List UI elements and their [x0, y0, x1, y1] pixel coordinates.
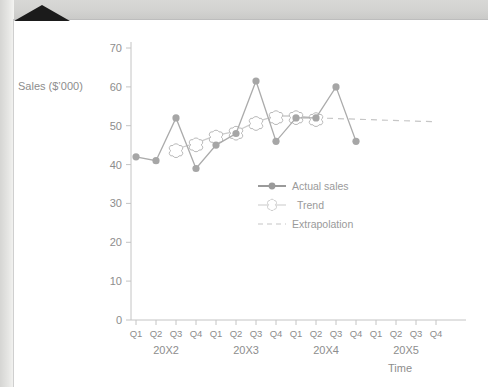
data-point-actual [212, 142, 219, 149]
x-tick-label: Q1 [290, 328, 303, 339]
y-tick-30: 30 [110, 197, 131, 209]
y-tick-label: 40 [110, 159, 122, 171]
y-tick-20: 20 [110, 236, 131, 248]
legend-label: Extrapolation [292, 218, 353, 230]
data-point-trend [249, 117, 263, 131]
legend-item-trend[interactable]: Trend [258, 199, 324, 211]
x-axis: Q1 Q2 Q3 Q4 Q1 Q2 Q3 Q4 Q1 Q2 Q3 Q4 Q1 Q… [130, 320, 466, 374]
y-tick-label: 20 [110, 236, 122, 248]
legend-item-actual-sales[interactable]: Actual sales [258, 180, 349, 192]
series-extrapolation [316, 118, 436, 122]
x-axis-title: Time [388, 362, 412, 374]
data-point-actual [352, 138, 359, 145]
y-tick-10: 10 [110, 275, 131, 287]
sales-trend-chart: 70 60 50 40 30 [0, 0, 488, 387]
y-tick-label: 0 [116, 314, 122, 326]
x-tick-label: Q4 [350, 328, 363, 339]
x-tick-label: Q2 [390, 328, 403, 339]
data-point-actual [132, 153, 139, 160]
x-tick-label: Q2 [150, 328, 163, 339]
data-point-actual [312, 114, 319, 121]
data-point-actual [192, 165, 199, 172]
x-tick-label: Q1 [370, 328, 383, 339]
y-axis-title: Sales ($’000) [18, 80, 83, 92]
x-tick-label: Q3 [250, 328, 263, 339]
x-tick-label: Q4 [430, 328, 443, 339]
x-year-label: 20X2 [153, 344, 179, 356]
data-point-actual [232, 130, 239, 137]
data-point-actual [272, 138, 279, 145]
data-point-actual [252, 77, 259, 84]
y-tick-60: 60 [110, 81, 131, 93]
x-tick-label: Q3 [170, 328, 183, 339]
x-year-label: 20X4 [313, 344, 339, 356]
y-tick-label: 60 [110, 81, 122, 93]
x-tick-label: Q3 [410, 328, 423, 339]
data-point-actual [332, 83, 339, 90]
y-tick-40: 40 [110, 159, 131, 171]
series-actual-sales [132, 77, 359, 172]
x-tick-label: Q3 [330, 328, 343, 339]
y-tick-0: 0 [116, 314, 131, 326]
data-point-trend [189, 138, 203, 152]
x-tick-label: Q2 [310, 328, 323, 339]
scanned-page: 70 60 50 40 30 [0, 0, 488, 387]
data-point-actual [292, 114, 299, 121]
data-point-actual [172, 114, 179, 121]
x-tick-label: Q2 [230, 328, 243, 339]
legend-label: Actual sales [292, 180, 349, 192]
y-tick-label: 50 [110, 120, 122, 132]
y-tick-70: 70 [110, 42, 131, 54]
legend-label: Trend [297, 199, 324, 211]
y-tick-label: 10 [110, 275, 122, 287]
y-tick-label: 30 [110, 197, 122, 209]
data-point-trend [169, 144, 183, 158]
y-axis: 70 60 50 40 30 [110, 42, 131, 326]
x-year-labels: 20X2 20X3 20X4 20X5 [153, 344, 419, 356]
y-tick-50: 50 [110, 120, 131, 132]
x-ticks [136, 320, 436, 325]
chart-legend: Actual sales Trend Extrapolation [258, 180, 353, 230]
x-tick-label: Q4 [270, 328, 283, 339]
legend-item-extrapolation[interactable]: Extrapolation [258, 218, 353, 230]
y-tick-label: 70 [110, 42, 122, 54]
x-year-label: 20X3 [233, 344, 259, 356]
x-tick-label: Q1 [210, 328, 223, 339]
data-point-trend [269, 111, 283, 125]
x-quarter-labels: Q1 Q2 Q3 Q4 Q1 Q2 Q3 Q4 Q1 Q2 Q3 Q4 Q1 Q… [130, 328, 443, 339]
x-year-label: 20X5 [393, 344, 419, 356]
x-tick-label: Q1 [130, 328, 143, 339]
data-point-actual [152, 157, 159, 164]
x-tick-label: Q4 [190, 328, 203, 339]
